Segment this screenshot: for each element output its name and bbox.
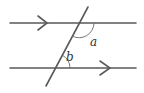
angle-a-label: a [90,35,97,49]
transversal-line [46,7,88,86]
angle-b-label: b [66,50,74,64]
parallel-lines-diagram: a b [0,0,144,93]
